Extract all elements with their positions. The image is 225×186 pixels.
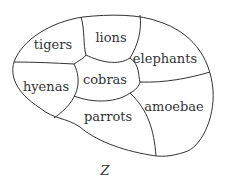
- tigers-lions-border: [81, 17, 86, 55]
- set-label-z: Z: [100, 163, 109, 178]
- region-label-hyenas: hyenas: [23, 79, 69, 94]
- tigers-hyenas-border: [14, 55, 86, 64]
- region-label-elephants: elephants: [133, 51, 197, 66]
- lions-cobras-border: [86, 55, 130, 62]
- elephants-amoebae-border: [140, 72, 210, 82]
- region-label-parrots: parrots: [84, 109, 132, 124]
- region-label-lions: lions: [95, 30, 126, 45]
- diagram: tigers lions elephants hyenas cobras amo…: [0, 0, 225, 186]
- region-label-tigers: tigers: [34, 37, 72, 52]
- region-label-cobras: cobras: [83, 72, 127, 87]
- region-label-amoebae: amoebae: [144, 99, 203, 114]
